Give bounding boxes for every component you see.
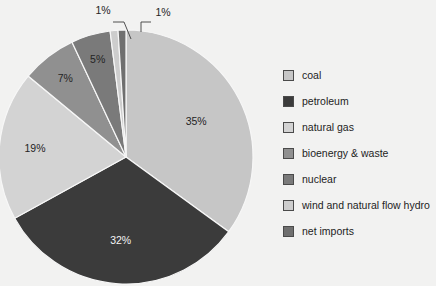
legend-swatch-icon — [283, 200, 294, 211]
legend-item[interactable]: wind and natural flow hydro — [283, 192, 435, 218]
slice-value-label: 35% — [186, 115, 207, 127]
legend-swatch-icon — [283, 174, 294, 185]
legend-item[interactable]: natural gas — [283, 114, 435, 140]
legend-item-label: bioenergy & waste — [302, 148, 388, 159]
legend-item[interactable]: bioenergy & waste — [283, 140, 435, 166]
legend-item-label: net imports — [302, 226, 354, 237]
slice-value-label-wind: 1% — [95, 4, 110, 16]
legend-item[interactable]: nuclear — [283, 166, 435, 192]
legend-item-label: nuclear — [302, 174, 336, 185]
legend-item-label: coal — [302, 70, 321, 81]
slice-value-label: 19% — [24, 142, 45, 154]
legend-item-label: wind and natural flow hydro — [302, 200, 430, 211]
legend-item[interactable]: net imports — [283, 218, 435, 244]
chart-legend: coalpetroleumnatural gasbioenergy & wast… — [283, 62, 435, 244]
slice-value-label: 7% — [58, 72, 73, 84]
slice-value-label: 32% — [110, 234, 131, 246]
legend-item-label: petroleum — [302, 96, 349, 107]
legend-swatch-icon — [283, 96, 294, 107]
legend-swatch-icon — [283, 148, 294, 159]
slice-value-label: 5% — [90, 53, 105, 65]
pie-chart-figure: 35%32%19%7%5% 1% 1% coalpetroleumnatural… — [0, 0, 436, 286]
legend-item[interactable]: petroleum — [283, 88, 435, 114]
legend-swatch-icon — [283, 70, 294, 81]
legend-swatch-icon — [283, 122, 294, 133]
legend-swatch-icon — [283, 226, 294, 237]
slice-value-label-net-imports: 1% — [155, 6, 170, 18]
legend-item-label: natural gas — [302, 122, 354, 133]
legend-item[interactable]: coal — [283, 62, 435, 88]
